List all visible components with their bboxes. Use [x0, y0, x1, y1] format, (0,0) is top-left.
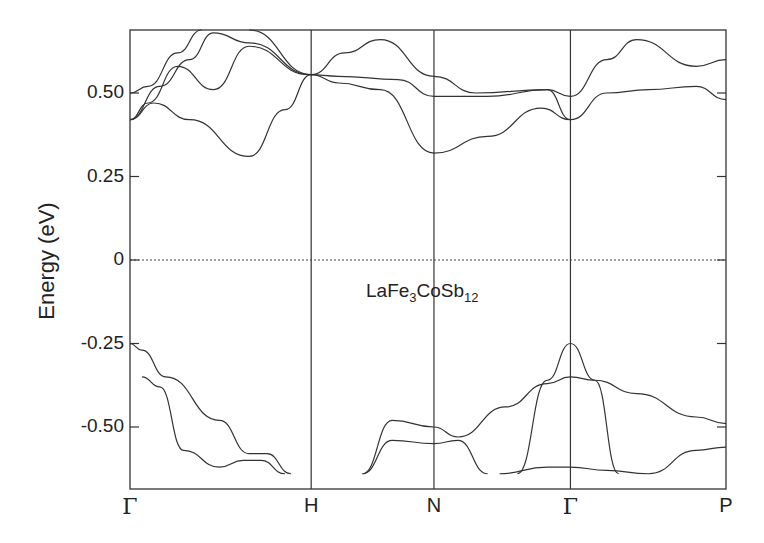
- y-axis-label: Energy (eV): [34, 176, 60, 346]
- energy-bands: [130, 30, 726, 474]
- band-curve: [130, 33, 311, 120]
- band-curve: [362, 440, 487, 473]
- band-curve: [142, 377, 285, 474]
- band-curve: [500, 447, 726, 474]
- annot-sub: 12: [464, 290, 478, 305]
- compound-annotation: LaFe3CoSb12: [366, 280, 479, 305]
- band-curve: [249, 30, 570, 96]
- band-curve: [130, 344, 291, 474]
- y-tick-label: -0.50: [24, 415, 124, 437]
- x-tick-label: Γ: [110, 494, 150, 519]
- annot-sub: 3: [409, 290, 416, 305]
- band-curve: [130, 46, 570, 119]
- band-curve: [517, 344, 618, 474]
- x-tick-label: N: [414, 494, 454, 517]
- x-tick-label: P: [706, 494, 746, 517]
- band-curve: [130, 30, 202, 93]
- band-curve: [311, 75, 570, 153]
- x-tick-label: Γ: [550, 494, 590, 519]
- band-curve: [362, 377, 726, 474]
- y-tick-label: 0.50: [24, 81, 124, 103]
- annot-part: LaFe: [366, 280, 409, 301]
- x-tick-label: H: [291, 494, 331, 517]
- annot-part: CoSb: [417, 280, 465, 301]
- band-curve: [570, 86, 726, 119]
